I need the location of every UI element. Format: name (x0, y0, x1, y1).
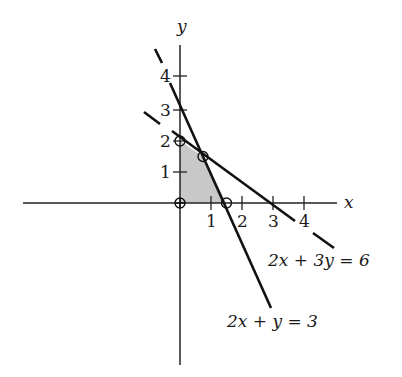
x-tick-label-4: 4 (299, 211, 310, 231)
x-axis-label: x (344, 192, 354, 212)
x-tick-label-3: 3 (268, 211, 279, 231)
x-tick-label-2: 2 (237, 211, 248, 231)
vertex-origin (175, 198, 185, 208)
annotation-2x-plus-3y-eq-6: 2x + 3y = 6 (267, 250, 370, 270)
y-tick-label-1: 1 (160, 162, 171, 182)
annotation-2x-plus-y-eq-3: 2x + y = 3 (226, 311, 318, 331)
y-tick-label-4: 4 (160, 66, 171, 86)
y-axis-label: y (176, 16, 187, 36)
linear-programming-plot: y x 1 2 3 4 1 2 3 4 2x + 3y = 6 2x + y =… (0, 0, 402, 377)
y-tick-label-2: 2 (160, 131, 171, 151)
line-2x-plus-y-eq-3 (155, 49, 271, 308)
y-tick-label-3: 3 (160, 100, 171, 120)
x-tick-label-1: 1 (206, 211, 217, 231)
